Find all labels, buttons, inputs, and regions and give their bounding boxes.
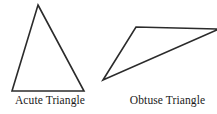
- acute-triangle-shape: [12, 5, 84, 91]
- obtuse-triangle-label: Obtuse Triangle: [118, 94, 217, 107]
- obtuse-triangle-shape: [103, 27, 217, 80]
- acute-triangle-label: Acute Triangle: [0, 94, 100, 107]
- triangle-types-figure: Acute Triangle Obtuse Triangle: [0, 0, 217, 114]
